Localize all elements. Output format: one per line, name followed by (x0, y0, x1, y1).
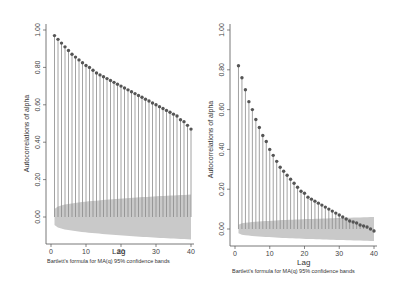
right-x-label: Lag (297, 258, 310, 267)
data-point (105, 77, 108, 80)
data-point (240, 76, 243, 79)
data-point (63, 45, 66, 48)
data-point (247, 100, 250, 103)
data-point (77, 58, 80, 61)
data-point (98, 73, 101, 76)
data-point (268, 148, 271, 151)
data-point (91, 69, 94, 72)
data-point (251, 108, 254, 111)
data-point (175, 114, 178, 117)
data-point (365, 225, 368, 228)
x-tick-label: 30 (335, 250, 343, 257)
y-tick-label: 1.00 (34, 23, 41, 37)
left-correlogram: 0.000.200.400.600.801.00010203040Autocor… (23, 23, 195, 255)
data-point (237, 64, 240, 67)
data-point (372, 229, 375, 232)
data-point (189, 127, 192, 130)
data-point (130, 90, 133, 93)
data-point (254, 118, 257, 121)
data-point (351, 220, 354, 223)
data-point (168, 111, 171, 114)
data-point (182, 120, 185, 123)
data-point (244, 88, 247, 91)
data-point (137, 94, 140, 97)
y-tick-label: 0.20 (34, 173, 41, 187)
data-point (133, 92, 136, 95)
data-point (88, 66, 91, 69)
correlogram-figure: 0.000.200.400.600.801.00010203040Autocor… (0, 0, 401, 292)
left-note: Bartlett's formula for MA(q) 95% confide… (47, 258, 170, 264)
data-point (327, 207, 330, 210)
data-point (186, 124, 189, 127)
data-point (261, 134, 264, 137)
data-point (320, 203, 323, 206)
data-point (67, 49, 70, 52)
data-point (258, 126, 261, 129)
x-tick-label: 0 (49, 248, 53, 255)
data-point (123, 86, 126, 89)
data-point (348, 219, 351, 222)
data-point (147, 99, 150, 102)
data-point (310, 197, 313, 200)
data-point (119, 84, 122, 87)
y-tick-label: 0.40 (218, 142, 225, 156)
data-point (74, 55, 77, 58)
data-point (60, 41, 63, 44)
data-point (95, 71, 98, 74)
data-point (272, 154, 275, 157)
data-point (144, 97, 147, 100)
y-axis-title: Autocorrelations of alpha (207, 101, 215, 179)
x-tick-label: 10 (82, 248, 90, 255)
x-tick-label: 0 (233, 250, 237, 257)
data-point (70, 53, 73, 56)
data-point (324, 205, 327, 208)
data-point (306, 195, 309, 198)
data-point (161, 107, 164, 110)
data-point (303, 191, 306, 194)
right-note: Bartlett's formula for MA(q) 95% confide… (232, 268, 355, 274)
confidence-band (55, 195, 192, 240)
data-point (172, 112, 175, 115)
y-tick-label: 0.80 (218, 63, 225, 77)
data-point (317, 201, 320, 204)
data-point (56, 38, 59, 41)
data-point (154, 103, 157, 106)
data-point (369, 227, 372, 230)
data-point (289, 178, 292, 181)
data-point (112, 81, 115, 84)
data-point (338, 213, 341, 216)
y-tick-label: 0.20 (218, 182, 225, 196)
data-point (345, 217, 348, 220)
data-point (102, 75, 105, 78)
x-tick-label: 40 (187, 248, 195, 255)
data-point (140, 96, 143, 99)
data-point (292, 182, 295, 185)
data-point (313, 199, 316, 202)
x-tick-label: 20 (301, 250, 309, 257)
y-tick-label: 0.00 (218, 222, 225, 236)
y-tick-label: 0.00 (34, 210, 41, 224)
data-point (278, 166, 281, 169)
data-point (362, 224, 365, 227)
data-point (116, 83, 119, 86)
left-x-label: Lag (112, 247, 125, 256)
data-point (296, 186, 299, 189)
y-axis-title: Autocorrelations of alpha (23, 95, 31, 173)
data-point (355, 221, 358, 224)
data-point (334, 211, 337, 214)
data-point (165, 109, 168, 112)
data-point (109, 79, 112, 82)
x-tick-label: 30 (152, 248, 160, 255)
data-point (179, 118, 182, 121)
data-point (341, 215, 344, 218)
x-tick-label: 10 (266, 250, 274, 257)
y-tick-label: 0.40 (34, 135, 41, 149)
x-tick-label: 40 (370, 250, 378, 257)
right-correlogram: 0.000.200.400.600.801.00010203040Autocor… (207, 23, 378, 257)
data-point (285, 174, 288, 177)
data-point (53, 34, 56, 37)
figure: 0.000.200.400.600.801.00010203040Autocor… (0, 0, 401, 292)
data-point (331, 209, 334, 212)
data-point (282, 170, 285, 173)
y-tick-label: 0.60 (34, 98, 41, 112)
